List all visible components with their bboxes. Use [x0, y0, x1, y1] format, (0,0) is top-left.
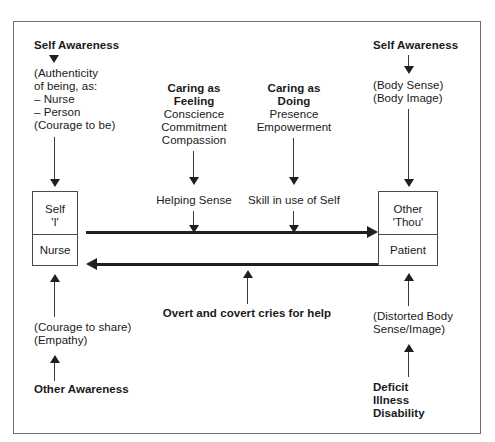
caring-feeling-heading-line-1: Caring as — [147, 82, 241, 95]
self-nurse-box-upper: Self 'I' — [33, 198, 77, 234]
caring-feeling-outcome: Helping Sense — [142, 194, 246, 207]
self-nurse-box-lower: Nurse — [33, 235, 77, 266]
right-top-detail-line-1: (Body Sense) — [373, 79, 443, 92]
other-patient-box: Other 'Thou' Patient — [378, 191, 438, 266]
caring-doing-heading-line-1: Caring as — [247, 82, 341, 95]
caring-feeling-detail-line-1: Conscience — [147, 108, 241, 121]
arrow-down-icon-right-top — [404, 66, 414, 74]
right-bottom-detail-line-2: Sense/Image) — [373, 323, 445, 336]
patient-label: Patient — [390, 244, 426, 257]
self-label-line-2: 'I' — [51, 216, 59, 229]
connector-right-bottom-upper — [408, 280, 409, 306]
arrow-down-icon-doing — [289, 177, 299, 185]
right-top-detail-line-2: (Body Image) — [373, 92, 443, 105]
left-top-detail-line-5: (Courage to be) — [34, 119, 115, 132]
caring-doing-outcome: Skill in use of Self — [236, 194, 352, 207]
left-bottom-detail-line-1: (Courage to share) — [34, 321, 131, 334]
arrow-left-icon-return — [86, 258, 97, 270]
other-patient-box-lower: Patient — [379, 235, 437, 266]
left-bottom-detail-line-2: (Empathy) — [34, 334, 88, 347]
other-label-line-1: Other — [394, 203, 423, 216]
arrow-up-icon-right-bottom — [404, 344, 414, 352]
arrow-down-icon-left-top — [49, 55, 59, 63]
connector-right-bottom-lower — [408, 351, 409, 377]
diagram-canvas: Self Awareness (Authenticity of being, a… — [0, 0, 495, 442]
exchange-arrow-return-shaft — [97, 263, 378, 266]
left-top-detail-line-3: – Nurse — [34, 93, 75, 106]
caring-feeling-heading-line-2: Feeling — [147, 95, 241, 108]
connector-left-top — [54, 137, 55, 181]
caring-doing-detail-line-1: Presence — [247, 108, 341, 121]
arrow-up-icon-left-bottom — [50, 355, 60, 363]
connector-feeling-upper — [193, 151, 194, 179]
connector-doing-upper — [293, 138, 294, 179]
right-bottom-heading-line-2: Illness — [373, 394, 409, 407]
right-bottom-heading-line-3: Disability — [373, 407, 425, 420]
caring-feeling-detail-line-3: Compassion — [147, 134, 241, 147]
arrow-right-icon-forward — [367, 226, 378, 238]
exchange-return-label: Overt and covert cries for help — [147, 307, 347, 320]
diagram-frame: Self Awareness (Authenticity of being, a… — [13, 21, 481, 434]
left-top-detail-line-4: – Person — [34, 106, 80, 119]
right-top-heading: Self Awareness — [373, 39, 458, 52]
arrow-down-icon-right-into-box — [404, 179, 414, 187]
arrow-down-icon-left-into-box — [50, 179, 60, 187]
connector-cries-for-help — [247, 278, 248, 304]
self-label-line-1: Self — [45, 203, 65, 216]
connector-left-bottom-lower — [54, 362, 55, 381]
caring-doing-detail-line-2: Empowerment — [247, 121, 341, 134]
self-nurse-box: Self 'I' Nurse — [32, 191, 78, 266]
exchange-arrow-forward-shaft — [86, 231, 368, 234]
arrow-up-icon-cries-for-help — [243, 270, 253, 278]
connector-right-top — [408, 109, 409, 179]
caring-doing-heading-line-2: Doing — [247, 95, 341, 108]
caring-feeling-detail-line-2: Commitment — [147, 121, 241, 134]
arrow-down-icon-feeling — [189, 177, 199, 185]
other-patient-box-upper: Other 'Thou' — [379, 198, 437, 234]
connector-left-bottom-upper — [54, 280, 55, 317]
other-label-line-2: 'Thou' — [393, 216, 424, 229]
right-bottom-detail-line-1: (Distorted Body — [373, 310, 453, 323]
arrow-up-icon-right-into-box — [404, 273, 414, 281]
arrow-up-icon-left-into-box — [50, 274, 60, 282]
left-top-detail-line-1: (Authenticity — [34, 67, 98, 80]
left-top-detail-line-2: of being, as: — [34, 80, 97, 93]
right-bottom-heading-line-1: Deficit — [373, 381, 409, 394]
left-top-heading: Self Awareness — [34, 39, 119, 52]
left-bottom-heading: Other Awareness — [34, 383, 129, 396]
nurse-label: Nurse — [40, 244, 71, 257]
